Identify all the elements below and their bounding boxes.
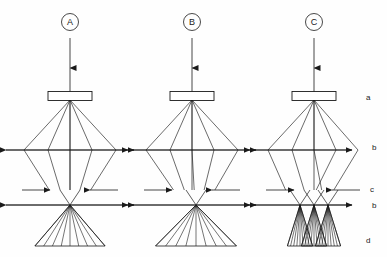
panel-letter-B: B bbox=[189, 17, 195, 27]
lens-C bbox=[292, 92, 336, 101]
lens-B bbox=[170, 92, 214, 101]
lens-A bbox=[48, 92, 92, 101]
level-label-b_upper: b bbox=[372, 143, 377, 152]
level-label-d: d bbox=[366, 236, 370, 245]
figure-canvas: ABC abcbd bbox=[0, 0, 387, 257]
level-label-b_lower: b bbox=[372, 201, 377, 210]
panel-letter-A: A bbox=[67, 17, 73, 27]
level-label-c: c bbox=[370, 185, 374, 194]
level-label-a: a bbox=[366, 93, 371, 102]
ray-diagram: ABC abcbd bbox=[0, 0, 387, 257]
panel-letter-C: C bbox=[311, 17, 318, 27]
